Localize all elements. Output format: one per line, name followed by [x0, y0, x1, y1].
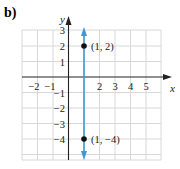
point-1-2: [81, 43, 87, 49]
y-tick: −1: [54, 88, 65, 99]
point-1-neg4: [81, 136, 87, 142]
y-tick: 2: [60, 41, 65, 52]
line-arrow-up-icon: [81, 27, 87, 36]
x-tick: 3: [112, 81, 117, 92]
x-axis-arrow-icon: [163, 74, 172, 80]
y-tick: −2: [54, 103, 65, 114]
y-tick: 3: [60, 25, 65, 36]
y-axis-arrow-icon: [66, 16, 72, 25]
y-tick: −3: [54, 119, 65, 130]
point-label: (1, −4): [91, 134, 120, 146]
coordinate-plane: x y −2 −1 2 3 4 5 3 2 1 −1 −2 −3 −4 (1, …: [0, 0, 180, 169]
y-tick: 1: [60, 57, 65, 68]
y-axis-label: y: [59, 13, 65, 25]
x-tick: 4: [128, 81, 134, 92]
x-tick: 2: [97, 81, 102, 92]
y-tick: −4: [54, 134, 66, 145]
x-axis-label: x: [169, 82, 175, 94]
point-label: (1, 2): [91, 41, 114, 53]
line-arrow-down-icon: [81, 151, 87, 160]
x-tick: −2: [28, 81, 39, 92]
x-tick: 5: [143, 81, 148, 92]
